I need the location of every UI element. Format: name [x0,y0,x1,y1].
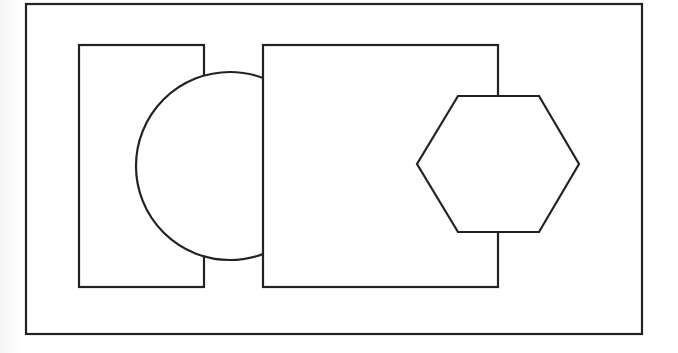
diagram-canvas [0,0,678,353]
